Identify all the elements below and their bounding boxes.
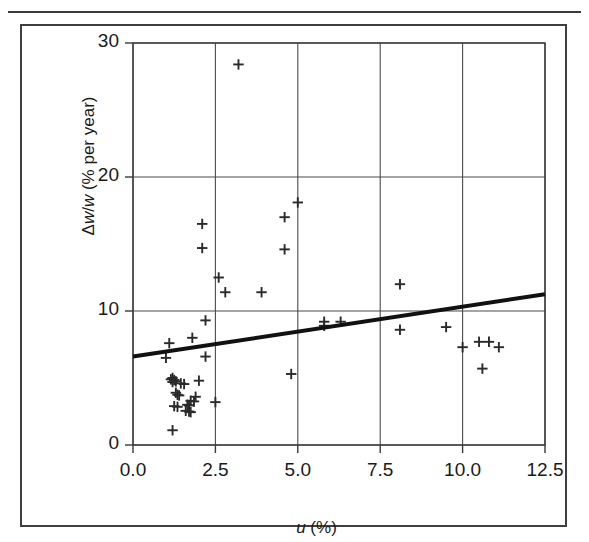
x-tick-label: 5.0 bbox=[253, 459, 343, 481]
x-tick-label: 2.5 bbox=[170, 459, 260, 481]
data-point bbox=[197, 219, 207, 229]
x-tick-label: 10.0 bbox=[418, 459, 508, 481]
data-point bbox=[210, 397, 220, 407]
data-point bbox=[194, 375, 204, 385]
x-tick-label: 12.5 bbox=[500, 459, 589, 481]
data-point bbox=[395, 279, 405, 289]
gridlines bbox=[133, 43, 545, 445]
data-point bbox=[477, 363, 487, 373]
data-point bbox=[457, 342, 467, 352]
data-point bbox=[484, 337, 494, 347]
axis-tick-marks bbox=[125, 43, 545, 453]
x-tick-label: 0.0 bbox=[88, 459, 178, 481]
plot-frame bbox=[133, 43, 545, 445]
data-point bbox=[474, 337, 484, 347]
x-axis-title: u (%) bbox=[22, 518, 589, 538]
data-point bbox=[286, 369, 296, 379]
data-point bbox=[256, 287, 266, 297]
data-point bbox=[395, 325, 405, 335]
figure-frame: 0102030 0.02.55.07.510.012.5 Δw/w (% per… bbox=[20, 24, 567, 527]
data-point bbox=[279, 212, 289, 222]
data-point bbox=[200, 315, 210, 325]
data-point bbox=[197, 243, 207, 253]
data-point bbox=[161, 353, 171, 363]
trend-line-segment bbox=[133, 294, 545, 356]
y-axis-title: Δw/w (% per year) bbox=[79, 51, 99, 281]
data-point bbox=[220, 287, 230, 297]
top-horizontal-rule bbox=[8, 11, 581, 13]
data-point-markers bbox=[161, 59, 504, 435]
data-point bbox=[494, 342, 504, 352]
data-point bbox=[293, 197, 303, 207]
x-axis-title-text: u (%) bbox=[296, 518, 337, 537]
data-point bbox=[167, 425, 177, 435]
data-point bbox=[187, 333, 197, 343]
data-point bbox=[200, 351, 210, 361]
data-point bbox=[279, 244, 289, 254]
y-axis-title-text: Δw/w (% per year) bbox=[79, 97, 98, 236]
x-tick-label: 7.5 bbox=[335, 459, 425, 481]
y-tick-label: 0 bbox=[49, 432, 119, 454]
data-point bbox=[233, 59, 243, 69]
trend-line bbox=[133, 294, 545, 356]
figure-container: 0102030 0.02.55.07.510.012.5 Δw/w (% per… bbox=[0, 0, 589, 542]
y-tick-label: 10 bbox=[49, 298, 119, 320]
y-tick-label: 30 bbox=[49, 30, 119, 52]
data-point bbox=[441, 322, 451, 332]
data-point bbox=[164, 338, 174, 348]
plot-axes-border bbox=[133, 43, 545, 445]
